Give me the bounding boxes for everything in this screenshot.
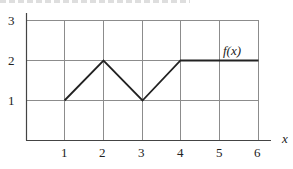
axes xyxy=(26,13,271,141)
y-tick-label: 2 xyxy=(8,53,15,68)
x-tick-label: 1 xyxy=(61,145,68,160)
x-tick-label: 6 xyxy=(254,145,261,160)
chart: 3 2 1 1 2 3 4 5 6 x f(x) xyxy=(0,0,293,169)
x-tick-label: 3 xyxy=(138,145,145,160)
y-tick-label: 1 xyxy=(8,93,15,108)
y-tick-label: 3 xyxy=(8,13,15,28)
x-tick-label: 4 xyxy=(177,145,184,160)
x-tick-label: 5 xyxy=(216,145,223,160)
curve-f-of-x xyxy=(65,61,259,101)
x-axis-label: x xyxy=(281,131,288,146)
curve-label: f(x) xyxy=(223,43,241,58)
grid xyxy=(26,20,259,140)
x-tick-label: 2 xyxy=(99,145,106,160)
